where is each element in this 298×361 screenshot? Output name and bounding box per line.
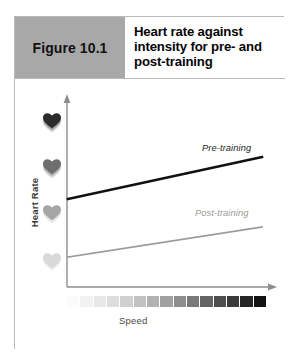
figure-number-label: Figure 10.1 [32, 40, 107, 56]
speed-gradient-swatch [107, 296, 119, 307]
figure-title-box: Heart rate against intensity for pre- an… [125, 17, 285, 78]
speed-gradient-swatch [254, 296, 266, 307]
x-axis-title: Speed [119, 315, 147, 326]
speed-gradient-swatch [214, 296, 226, 307]
y-axis-arrowhead [64, 94, 71, 103]
heart-icon [41, 107, 63, 133]
speed-gradient-swatch [240, 296, 252, 307]
speed-gradient-swatch [174, 296, 186, 307]
speed-gradient-swatch [147, 296, 159, 307]
x-axis-arrowhead [268, 284, 277, 291]
x-axis [67, 284, 277, 291]
figure-title: Heart rate against intensity for pre- an… [134, 25, 281, 69]
figure-frame: Figure 10.1 Heart rate against intensity… [14, 16, 284, 349]
speed-gradient-swatch [94, 296, 106, 307]
chart-plot-region: Pre-training Post-training Heart Rate Sp… [15, 79, 285, 349]
post-training-series-label: Post-training [195, 208, 249, 218]
speed-gradient-swatch [80, 296, 92, 307]
figure-number-box: Figure 10.1 [15, 17, 125, 78]
speed-gradient-swatch [134, 296, 146, 307]
speed-gradient-swatch [187, 296, 199, 307]
heart-icon [41, 199, 63, 225]
speed-gradient-swatch [200, 296, 212, 307]
y-axis-title: Heart Rate [29, 168, 40, 238]
figure-header: Figure 10.1 Heart rate against intensity… [15, 17, 285, 79]
post-training-line [68, 227, 262, 257]
heart-icon [41, 153, 63, 179]
speed-gradient-swatch [67, 296, 79, 307]
pre-training-series-label: Pre-training [202, 143, 251, 153]
speed-intensity-gradient [67, 296, 266, 307]
heart-rate-intensity-icons [41, 107, 65, 287]
speed-gradient-swatch [227, 296, 239, 307]
chart-area: Pre-training Post-training Heart Rate Sp… [15, 79, 285, 349]
speed-gradient-swatch [120, 296, 132, 307]
speed-gradient-swatch [160, 296, 172, 307]
pre-training-line [68, 157, 262, 199]
heart-icon [41, 247, 63, 273]
